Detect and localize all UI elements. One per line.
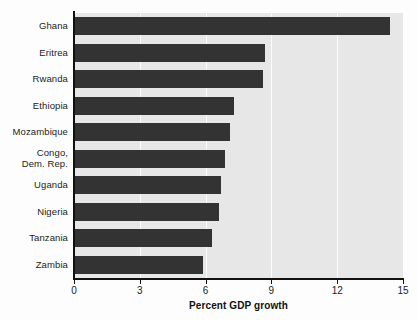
x-tick-mark-15 xyxy=(403,280,404,284)
bar xyxy=(74,70,263,88)
bar xyxy=(74,176,221,194)
y-axis-label: Zambia xyxy=(0,260,68,271)
y-axis-label: Uganda xyxy=(0,180,68,191)
gdp-growth-bar-chart: GhanaEritreaRwandaEthiopiaMozambiqueCong… xyxy=(0,0,418,320)
bar xyxy=(74,203,219,221)
x-tick-mark-6 xyxy=(206,280,207,284)
x-tick-label-6: 6 xyxy=(191,285,221,296)
y-axis-label: Mozambique xyxy=(0,127,68,138)
y-axis-category-labels: GhanaEritreaRwandaEthiopiaMozambiqueCong… xyxy=(0,13,68,278)
x-axis-title: Percent GDP growth xyxy=(74,300,403,311)
bar xyxy=(74,229,212,247)
x-tick-label-12: 12 xyxy=(322,285,352,296)
x-tick-label-0: 0 xyxy=(59,285,89,296)
x-tick-label-3: 3 xyxy=(125,285,155,296)
x-axis-line xyxy=(73,278,404,280)
y-axis-label: Congo, Dem. Rep. xyxy=(0,148,68,169)
x-tick-mark-12 xyxy=(337,280,338,284)
x-tick-label-9: 9 xyxy=(256,285,286,296)
y-axis-label: Tanzania xyxy=(0,233,68,244)
y-axis-label: Ghana xyxy=(0,21,68,32)
y-axis-label: Ethiopia xyxy=(0,101,68,112)
bar xyxy=(74,256,203,274)
x-tick-mark-9 xyxy=(271,280,272,284)
gridline-9 xyxy=(271,13,272,278)
bar xyxy=(74,44,265,62)
bar xyxy=(74,97,234,115)
x-tick-mark-3 xyxy=(140,280,141,284)
bar xyxy=(74,17,390,35)
bar xyxy=(74,150,225,168)
gridline-12 xyxy=(337,13,338,278)
y-axis-line xyxy=(73,11,75,280)
x-tick-mark-0 xyxy=(74,280,75,284)
y-axis-label: Eritrea xyxy=(0,48,68,59)
y-axis-label: Nigeria xyxy=(0,207,68,218)
bar xyxy=(74,123,230,141)
plot-area xyxy=(74,13,403,278)
x-tick-label-15: 15 xyxy=(388,285,418,296)
y-axis-label: Rwanda xyxy=(0,74,68,85)
